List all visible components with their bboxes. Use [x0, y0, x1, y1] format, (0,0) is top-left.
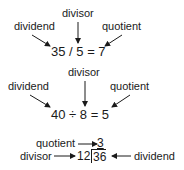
arrow-quotient-2 — [112, 95, 130, 107]
divisor-label-3: divisor — [20, 151, 52, 162]
arrow-dividend-2 — [30, 95, 50, 107]
divisor-label-2: divisor — [68, 67, 100, 78]
quotient-label-2: quotient — [110, 81, 149, 92]
dividend-label-3: dividend — [134, 151, 175, 162]
quotient-label-3: quotient — [36, 138, 75, 149]
equation-obelus: 40 ÷ 8 = 5 — [51, 108, 109, 121]
dividend-value: 36 — [91, 149, 106, 163]
quotient-label-1: quotient — [102, 21, 141, 32]
quotient-value: 3 — [97, 137, 104, 149]
equation-slash: 35 / 5 = 7 — [51, 45, 106, 58]
arrow-dividend-1 — [32, 35, 50, 46]
divisor-value: 12 — [77, 150, 90, 162]
arrow-quotient-1 — [105, 35, 122, 46]
dividend-label-2: dividend — [8, 81, 49, 92]
divisor-label-1: divisor — [62, 8, 94, 19]
dividend-label-1: dividend — [14, 21, 55, 32]
